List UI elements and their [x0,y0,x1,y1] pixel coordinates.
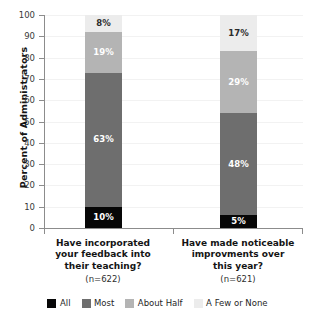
y-tick-100 [39,15,44,16]
legend-item-about-half[interactable]: About Half [125,298,182,308]
legend-item-a-few-or-none[interactable]: A Few or None [194,298,268,308]
bar-have-made-noticeable-improvements[interactable]: 17% 29% 48% 5% [220,15,257,228]
y-tick-60 [39,100,44,101]
y-tick-label-0: 0 [0,224,35,233]
legend-swatch-icon [82,299,91,308]
gridline-50 [45,122,303,123]
y-tick-50 [39,122,44,123]
y-tick-20 [39,185,44,186]
gridline-80 [45,58,303,59]
y-tick-10 [39,207,44,208]
legend-label: About Half [138,298,183,308]
legend-swatch-icon [47,299,56,308]
legend-label: A Few or None [206,298,267,308]
y-tick-label-70: 70 [0,75,35,84]
x-tick-left [44,229,45,234]
gridline-90 [45,36,303,37]
y-tick-label-30: 30 [0,160,35,169]
category-label-0: Have incorporated your feedback into the… [28,238,178,284]
legend-item-most[interactable]: Most [82,298,115,308]
plot-area [45,15,303,228]
gridline-20 [45,185,303,186]
category-sample-size: (n=621) [163,274,313,285]
bar-segment-label: 29% [228,78,248,87]
y-tick-70 [39,79,44,80]
y-axis-line [44,15,45,229]
category-label-line: Have incorporated [28,238,178,249]
gridline-30 [45,164,303,165]
gridline-100 [45,15,303,16]
bar-segment-all[interactable]: 10% [85,207,122,228]
bar-segment-about-half[interactable]: 29% [220,51,257,113]
y-tick-30 [39,164,44,165]
bar-segment-label: 8% [96,19,110,28]
bar-segment-label: 48% [228,160,248,169]
y-tick-40 [39,143,44,144]
bar-have-incorporated[interactable]: 8% 19% 63% 10% [85,15,122,228]
gridline-10 [45,207,303,208]
bar-segment-label: 5% [231,217,245,226]
bar-segment-a-few-or-none[interactable]: 17% [220,15,257,51]
category-label-line: this year? [163,261,313,272]
category-label-line: Have made noticeable [163,238,313,249]
gridline-40 [45,143,303,144]
bar-segment-about-half[interactable]: 19% [85,32,122,72]
bar-segment-all[interactable]: 5% [220,215,257,228]
y-tick-label-40: 40 [0,139,35,148]
y-tick-label-10: 10 [0,203,35,212]
gridline-70 [45,79,303,80]
legend-swatch-icon [125,299,134,308]
bar-segment-label: 10% [93,213,113,222]
bar-segment-label: 63% [93,135,113,144]
bar-segment-a-few-or-none[interactable]: 8% [85,15,122,32]
x-tick-mid [173,229,174,234]
stacked-bar-chart: Percent of Administrators 100 90 80 70 6… [0,0,315,321]
category-label-line: your feedback into [28,249,178,260]
y-tick-90 [39,36,44,37]
legend-label: Most [94,298,114,308]
y-tick-label-20: 20 [0,181,35,190]
category-sample-size: (n=622) [28,274,178,285]
bar-segment-label: 17% [228,29,248,38]
legend-swatch-icon [194,299,203,308]
gridline-60 [45,100,303,101]
legend-label: All [60,298,71,308]
bar-segment-label: 19% [93,48,113,57]
legend-item-all[interactable]: All [47,298,70,308]
y-tick-label-50: 50 [0,118,35,127]
category-label-line: their teaching? [28,261,178,272]
y-tick-label-80: 80 [0,54,35,63]
legend: All Most About Half A Few or None [0,298,315,308]
x-tick-right [302,229,303,234]
y-tick-label-60: 60 [0,96,35,105]
y-tick-label-100: 100 [0,11,35,20]
y-tick-label-90: 90 [0,32,35,41]
category-label-line: improvments over [163,249,313,260]
bar-segment-most[interactable]: 63% [85,73,122,207]
y-tick-80 [39,58,44,59]
bar-segment-most[interactable]: 48% [220,113,257,215]
category-label-1: Have made noticeable improvments over th… [163,238,313,284]
